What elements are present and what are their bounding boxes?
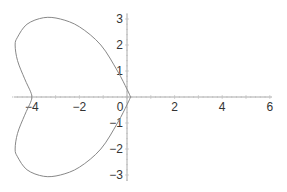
y-tick-label: 2 <box>116 38 123 52</box>
y-tick-label: 3 <box>116 12 123 26</box>
y-tick-label: −2 <box>109 142 123 156</box>
y-tick-label: −3 <box>109 168 123 182</box>
polar-curve-chart: −4−20246−3−2−1123 <box>0 0 287 192</box>
x-tick-label: 2 <box>171 100 178 114</box>
y-tick-label: −1 <box>109 116 123 130</box>
x-tick-label: 6 <box>266 100 273 114</box>
x-tick-label: 0 <box>117 100 124 114</box>
x-tick-label: −4 <box>25 100 39 114</box>
axes <box>14 14 272 181</box>
x-tick-label: −2 <box>73 100 87 114</box>
x-tick-label: 4 <box>219 100 226 114</box>
